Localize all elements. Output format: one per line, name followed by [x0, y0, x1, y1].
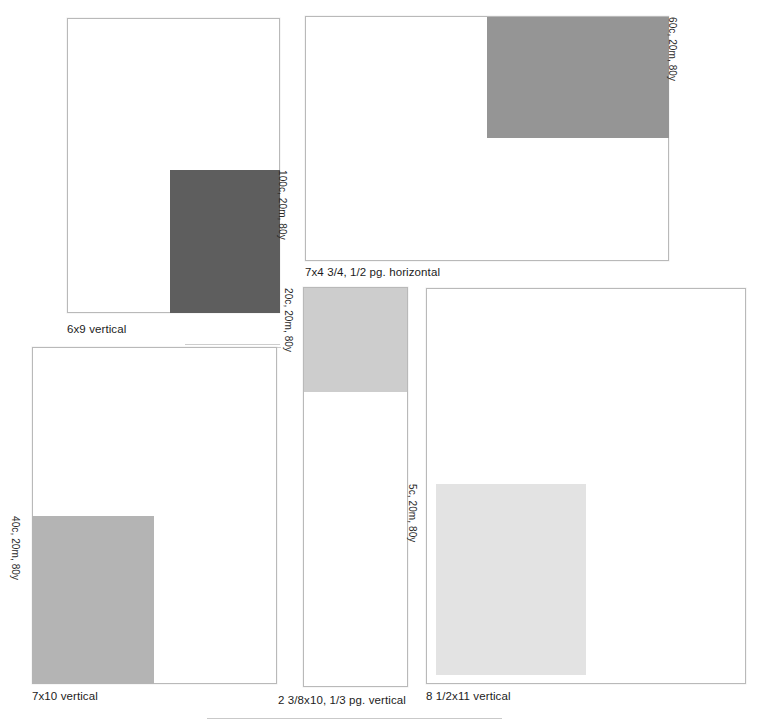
- ink-label-2-3-8x10-third-page-vertical: 20c, 20m, 80y: [283, 288, 294, 352]
- color-swatch-20c-20m-80y: [304, 288, 407, 392]
- ink-label-6x9-vertical: 100c, 20m, 80y: [277, 170, 288, 240]
- caption-7x4-75-half-page-horizontal: 7x4 3/4, 1/2 pg. horizontal: [305, 266, 440, 279]
- scan-artifact-stroke: [185, 344, 280, 345]
- caption-6x9-vertical: 6x9 vertical: [67, 323, 126, 336]
- color-swatch-60c-20m-80y: [487, 17, 669, 138]
- caption-7x10-vertical: 7x10 vertical: [32, 690, 98, 703]
- caption-8-1-2x11-vertical: 8 1/2x11 vertical: [426, 690, 511, 703]
- color-swatch-proof-sheet: 100c, 20m, 80y 6x9 vertical 60c, 20m, 80…: [0, 0, 765, 725]
- ink-label-7x4-75-half-page-horizontal: 60c, 20m, 80y: [667, 17, 678, 81]
- color-swatch-40c-20m-80y: [32, 516, 154, 684]
- color-swatch-5c-20m-80y: [436, 484, 586, 675]
- caption-2-3-8x10-third-page-vertical: 2 3/8x10, 1/3 pg. vertical: [278, 694, 406, 707]
- ink-label-8-1-2x11-vertical: 5c, 20m, 80y: [407, 484, 418, 542]
- ink-label-7x10-vertical: 40c, 20m, 80y: [10, 516, 21, 580]
- color-swatch-100c-20m-80y: [170, 170, 280, 313]
- bottom-registration-rule: [207, 718, 502, 719]
